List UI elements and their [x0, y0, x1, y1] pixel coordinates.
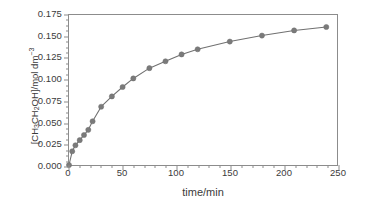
data-point — [86, 127, 91, 132]
y-tick-label: 0.075 — [38, 96, 62, 106]
y-minor-tick — [66, 134, 69, 135]
data-point — [90, 119, 95, 124]
y-tick-label: 0.100 — [38, 74, 62, 84]
y-major-tick — [64, 80, 69, 81]
y-major-tick — [64, 101, 69, 102]
data-point — [227, 39, 232, 44]
data-point — [120, 84, 125, 89]
data-point — [70, 149, 75, 154]
x-tick-label: 150 — [222, 168, 238, 178]
y-minor-tick — [66, 96, 69, 97]
y-minor-tick — [66, 53, 69, 54]
x-tick-label: 250 — [330, 168, 346, 178]
y-major-tick — [64, 123, 69, 124]
y-minor-tick — [66, 91, 69, 92]
y-minor-tick — [66, 25, 69, 26]
data-point — [195, 47, 200, 52]
y-minor-tick — [66, 63, 69, 64]
y-tick-label: 0.025 — [38, 140, 62, 150]
y-minor-tick — [66, 161, 69, 162]
y-minor-tick — [66, 150, 69, 151]
y-axis-title-sub2: 2 — [33, 106, 40, 110]
y-axis-title-suffix: OH]/mol dm — [29, 56, 40, 107]
x-tick-label: 50 — [117, 168, 128, 178]
y-minor-tick — [66, 31, 69, 32]
y-major-tick — [64, 58, 69, 59]
y-minor-tick — [66, 129, 69, 130]
x-tick-label: 200 — [276, 168, 292, 178]
data-point — [147, 66, 152, 71]
data-point — [109, 94, 114, 99]
y-tick-label: 0.050 — [38, 118, 62, 128]
y-axis-title-prefix: [CH — [29, 128, 40, 144]
data-point — [131, 76, 136, 81]
data-point — [81, 132, 86, 137]
y-minor-tick — [66, 107, 69, 108]
data-point — [259, 33, 264, 38]
y-major-tick — [64, 145, 69, 146]
y-axis-title: [CH3CH2OH]/mol dm−3 — [28, 16, 40, 176]
y-major-tick — [64, 15, 69, 16]
data-point — [77, 138, 82, 143]
data-point — [324, 24, 329, 29]
y-axis-title-sub1: 3 — [33, 124, 40, 128]
chart-figure: 0.0000.0250.0500.0750.1000.1250.1500.175… — [0, 0, 372, 211]
data-point — [163, 59, 168, 64]
data-point — [73, 143, 78, 148]
y-axis-title-sup: −3 — [28, 48, 35, 56]
y-tick-label: 0.125 — [38, 53, 62, 63]
y-minor-tick — [66, 112, 69, 113]
y-tick-label: 0.000 — [38, 161, 62, 171]
y-tick-label: 0.175 — [38, 9, 62, 19]
y-minor-tick — [66, 156, 69, 157]
data-point — [292, 28, 297, 33]
y-axis-title-mid: CH — [29, 110, 40, 124]
y-minor-tick — [66, 118, 69, 119]
y-tick-label: 0.150 — [38, 31, 62, 41]
y-minor-tick — [66, 85, 69, 86]
plot-area — [68, 14, 338, 166]
x-axis-title: time/min — [68, 186, 338, 198]
y-minor-tick — [66, 69, 69, 70]
x-tick-label: 100 — [168, 168, 184, 178]
series-ethanol-concentration — [69, 15, 337, 165]
x-axis-tick-labels: 050100150200250 — [68, 168, 338, 182]
y-minor-tick — [66, 74, 69, 75]
y-minor-tick — [66, 42, 69, 43]
y-minor-tick — [66, 47, 69, 48]
y-minor-tick — [66, 20, 69, 21]
y-minor-tick — [66, 139, 69, 140]
data-point — [99, 104, 104, 109]
y-major-tick — [64, 36, 69, 37]
data-point — [179, 52, 184, 57]
x-tick-label: 0 — [65, 168, 70, 178]
